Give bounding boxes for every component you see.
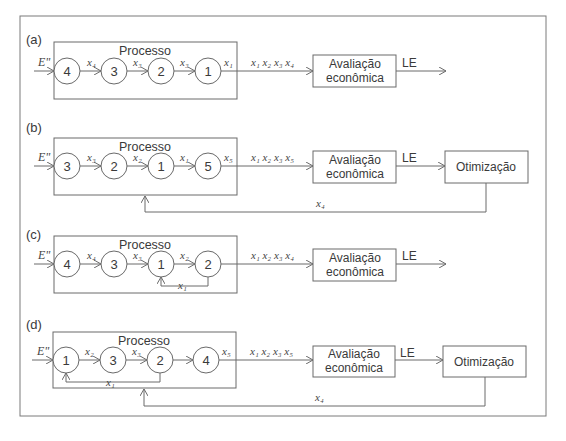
svg-text:econômica: econômica (326, 71, 384, 85)
svg-text:Avaliação: Avaliação (329, 251, 381, 265)
output-vars: x₁ x₂ x₃ x₄ (250, 56, 294, 68)
svg-text:1: 1 (62, 353, 69, 368)
input-label: E" (37, 150, 51, 164)
panel-label: (d) (26, 317, 42, 332)
node-circle: 1 (195, 58, 221, 84)
svg-text:4: 4 (202, 353, 209, 368)
svg-text:3: 3 (110, 257, 117, 272)
node-circle: 3 (101, 58, 127, 84)
node-circle: 4 (54, 251, 80, 277)
edge-label: x₅ (221, 345, 231, 357)
edge-label: x₁ (223, 56, 233, 68)
edge-label: x₃ (131, 345, 141, 357)
svg-text:Avaliação: Avaliação (329, 57, 381, 71)
feedback-label: x₄ (314, 391, 324, 403)
le-label: LE (402, 56, 417, 70)
edge-label: x₄ (86, 249, 96, 261)
node-circle: 3 (100, 347, 126, 373)
svg-text:4: 4 (63, 64, 70, 79)
process-title: Processo (119, 44, 171, 58)
svg-text:1: 1 (204, 64, 211, 79)
panel-c: (c) Processo E" 4 x₄ 3 x₃ 1 x₂ 2 x₁ x₁ x… (26, 227, 446, 293)
edge-label: x₃ (86, 151, 96, 163)
panel-label: (b) (26, 120, 42, 135)
panel-a: (a) Processo E" 4 x₄ 3 x₃ 2 x₃ 1 x₁ x₁ x… (26, 32, 446, 99)
edge-label: x₂ (179, 249, 189, 261)
svg-text:3: 3 (109, 353, 116, 368)
node-circle: 4 (193, 347, 219, 373)
edge-label: x₃ (132, 249, 142, 261)
le-label: LE (402, 151, 417, 165)
edge-label: x₃ (179, 56, 189, 68)
panel-d: (d) Processo E" 1 x₂ 3 x₃ 2 4 x₅ x₁ x₁ x… (26, 317, 526, 406)
input-label: E" (36, 344, 50, 358)
input-label: E" (37, 55, 51, 69)
feedback-label: x₄ (315, 197, 325, 209)
edge-label: x₃ (132, 56, 142, 68)
recycle-label: x₁ (105, 376, 115, 388)
svg-text:econômica: econômica (326, 265, 384, 279)
node-circle: 1 (148, 251, 174, 277)
svg-text:3: 3 (110, 64, 117, 79)
panel-label: (a) (26, 32, 42, 47)
svg-text:2: 2 (157, 64, 164, 79)
svg-text:Avaliação: Avaliação (328, 347, 380, 361)
panel-b: (b) Processo E" 3 x₃ 2 x₂ 1 x₁ 5 x₅ x₁ x… (26, 120, 528, 212)
edge-label: x₁ (179, 151, 189, 163)
edge-label: x₂ (84, 345, 94, 357)
le-label: LE (402, 249, 417, 263)
svg-text:4: 4 (63, 257, 70, 272)
input-label: E" (37, 248, 51, 262)
le-label: LE (400, 346, 415, 360)
process-title: Processo (119, 238, 171, 252)
node-circle: 3 (54, 153, 80, 179)
svg-text:Avaliação: Avaliação (329, 153, 381, 167)
svg-text:3: 3 (63, 159, 70, 174)
svg-text:2: 2 (156, 353, 163, 368)
recycle-label: x₁ (177, 279, 187, 291)
node-circle: 2 (148, 58, 174, 84)
svg-text:5: 5 (204, 159, 211, 174)
svg-text:Otimização: Otimização (456, 160, 516, 174)
panel-label: (c) (26, 227, 41, 242)
node-circle: 1 (148, 153, 174, 179)
node-circle: 2 (147, 347, 173, 373)
svg-text:econômica: econômica (325, 361, 383, 375)
edge-label: x₂ (132, 151, 142, 163)
svg-text:Otimização: Otimização (454, 355, 514, 369)
node-circle: 2 (195, 251, 221, 277)
output-vars: x₁ x₂ x₃ x₅ (249, 345, 293, 357)
node-circle: 1 (53, 347, 79, 373)
svg-text:2: 2 (204, 257, 211, 272)
svg-text:econômica: econômica (326, 167, 384, 181)
edge-label: x₄ (86, 56, 96, 68)
node-circle: 5 (195, 153, 221, 179)
svg-text:2: 2 (110, 159, 117, 174)
node-circle: 2 (101, 153, 127, 179)
process-title: Processo (118, 334, 170, 348)
svg-text:1: 1 (157, 159, 164, 174)
edge-label: x₅ (223, 151, 233, 163)
node-circle: 4 (54, 58, 80, 84)
output-vars: x₁ x₂ x₃ x₅ (250, 151, 294, 163)
output-vars: x₁ x₂ x₃ x₄ (250, 249, 294, 261)
process-title: Processo (119, 140, 171, 154)
node-circle: 3 (101, 251, 127, 277)
svg-text:1: 1 (157, 257, 164, 272)
process-optimization-diagram: (a) Processo E" 4 x₄ 3 x₃ 2 x₃ 1 x₁ x₁ x… (0, 0, 566, 441)
